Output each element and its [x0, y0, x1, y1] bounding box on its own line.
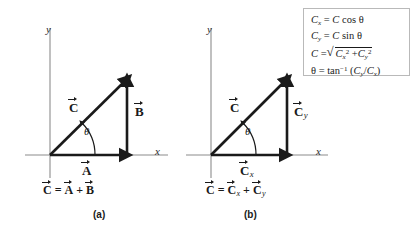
formula-angle-den: C	[367, 66, 374, 77]
formula-angle: θ = tan−1 (Cy/Cx)	[311, 66, 409, 78]
panel-b-vector-Cx-label: Cx	[240, 163, 254, 179]
panel-a-label: (a)	[93, 210, 105, 220]
formula-cx: Cx = C cos θ	[311, 15, 409, 27]
panel-b-caption-term1-sub: x	[236, 189, 240, 198]
panel-a-angle-label: θ	[84, 126, 89, 137]
panel-b-vector-Cx-letter: C	[240, 163, 249, 178]
panel-b-label: (b)	[244, 210, 257, 220]
panel-a-caption: C = A + B	[43, 183, 94, 196]
formula-magnitude-lhs: C	[311, 48, 318, 59]
formula-box: Cx = C cos θ Cy = C sin θ C =Cx2 +Cy2 θ …	[303, 8, 410, 76]
panel-b-caption-plus: +	[243, 183, 250, 197]
panel-b-vector-Cx-subscript: x	[250, 169, 254, 179]
panel-a-vector-A-label: A	[82, 163, 91, 177]
formula-angle-fn-sup: −1	[340, 65, 347, 72]
formula-cx-rhs-angle: θ	[359, 14, 364, 25]
panel-b-caption-term1: C	[228, 183, 237, 197]
formula-magnitude-term1: C	[336, 48, 343, 59]
formula-cx-rhs-fn: cos	[342, 14, 356, 25]
formula-cx-lhs: C	[311, 14, 318, 25]
formula-magnitude-radical: Cx2 +Cy2	[327, 47, 373, 61]
panel-b-caption-equals: =	[218, 183, 225, 197]
vector-addition-figure: y x C A B θ C = A + B (a) y x C Cx Cy θ …	[0, 0, 417, 231]
formula-angle-fn: tan	[327, 66, 340, 77]
panel-a-vector-B-letter: B	[135, 104, 144, 119]
panel-a-caption-plus: +	[76, 183, 83, 197]
formula-cy-lhs-sub: y	[318, 35, 321, 43]
formula-angle-close-paren: )	[377, 66, 381, 77]
panel-b-caption-lhs: C	[206, 183, 215, 197]
formula-angle-equals: =	[319, 66, 325, 77]
formula-cy-equals: =	[324, 30, 330, 41]
panel-a-vector-C-label: C	[69, 100, 78, 114]
panel-b-angle-label: θ	[245, 126, 250, 137]
panel-a-vector-C-letter: C	[69, 100, 78, 115]
formula-cy: Cy = C sin θ	[311, 31, 409, 43]
panel-a-caption-equals: =	[55, 183, 62, 197]
panel-b-vector-Cy-letter: C	[294, 104, 303, 119]
panel-a-x-axis-label: x	[155, 146, 160, 157]
formula-cx-equals: =	[324, 14, 330, 25]
panel-a-caption-lhs: C	[43, 183, 52, 197]
panel-b-caption-term2-sub: y	[262, 189, 266, 198]
panel-a-caption-term2: B	[86, 183, 94, 197]
formula-cx-lhs-sub: x	[318, 19, 321, 27]
panel-b-vector-C	[211, 82, 284, 155]
formula-magnitude-term2: C	[358, 48, 365, 59]
panel-b-vector-Cy-label: Cy	[294, 104, 308, 120]
formula-cy-lhs: C	[311, 30, 318, 41]
panel-b-vector-C-letter: C	[230, 100, 239, 115]
panel-b-vector-Cy-subscript: y	[304, 110, 308, 120]
formula-magnitude-term1-sup: 2	[346, 48, 349, 55]
panel-a-vector-C	[50, 82, 124, 155]
formula-cx-rhs-var: C	[332, 14, 339, 25]
panel-b-caption: C = Cx + Cy	[206, 183, 266, 198]
panel-b-x-axis-label: x	[316, 146, 321, 157]
formula-cy-rhs-fn: sin	[342, 30, 354, 41]
formula-magnitude: C =Cx2 +Cy2	[311, 47, 409, 61]
formula-magnitude-term2-sup: 2	[368, 48, 371, 55]
formula-angle-lhs: θ	[311, 66, 316, 77]
formula-angle-num: C	[354, 66, 361, 77]
panel-a-vector-A-letter: A	[82, 163, 91, 178]
formula-cy-rhs-var: C	[332, 30, 339, 41]
formula-cy-rhs-angle: θ	[357, 30, 362, 41]
panel-a-y-axis-label: y	[46, 24, 51, 35]
panel-b-y-axis-label: y	[207, 24, 212, 35]
panel-b-caption-term2: C	[253, 183, 262, 197]
panel-b-vector-C-label: C	[230, 100, 239, 114]
panel-a-vector-B-label: B	[135, 104, 144, 118]
panel-a-caption-term1: A	[65, 183, 74, 197]
